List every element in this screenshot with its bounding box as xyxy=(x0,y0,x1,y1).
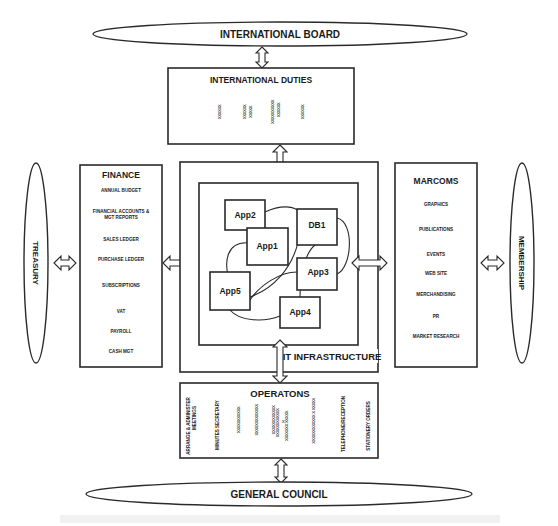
app-node-label: DB1 xyxy=(308,220,325,230)
finance-item: SALES LEDGER xyxy=(103,237,139,242)
finance-item: ANNUAL BUDGET xyxy=(101,188,141,193)
international-duties-box[interactable]: INTERNATIONAL DUTIES xxxxxxxxxxxxxxxxxxx… xyxy=(168,68,354,144)
marcoms-item: MERCHANDISING xyxy=(416,292,456,297)
app-node-app4[interactable]: App4 xyxy=(280,297,320,328)
double-arrow-horizontal-icon xyxy=(54,256,76,270)
operations-column-text: TELEPHONE/RECEPTION xyxy=(341,395,346,452)
duties-placeholder-text: xxxxxx xyxy=(299,104,305,119)
app-node-label: App1 xyxy=(256,241,278,251)
international-duties-title: INTERNATIONAL DUTIES xyxy=(210,75,312,85)
treasury[interactable]: TREASURY xyxy=(24,163,48,363)
finance-item: CASH MGT xyxy=(109,349,134,354)
membership[interactable]: MEMBERSHIP xyxy=(510,163,534,363)
finance-item: PURCHASE LEDGER xyxy=(98,257,145,262)
operations-column-text: xxxxxxx xxxxx xyxy=(283,410,289,440)
operations-column-text: xxxxxxxxxxxx xyxy=(274,408,280,437)
finance-box[interactable]: FINANCE ANNUAL BUDGET FINANCIAL ACCOUNTS… xyxy=(80,165,162,367)
app-node-app3[interactable]: App3 xyxy=(297,258,337,290)
duties-placeholder-text: xxxxx xyxy=(247,105,253,118)
finance-item: SUBSCRIPTIONS xyxy=(102,283,140,288)
duties-placeholder-text: xxxxxx xyxy=(275,102,281,117)
finance-item: VAT xyxy=(117,309,126,314)
organisation-diagram: INTERNATIONAL BOARD INTERNATIONAL DUTIES… xyxy=(0,0,558,526)
operations-column-text: ARRANGE & ADMINISTER xyxy=(186,397,191,455)
double-arrow-vertical-icon xyxy=(256,47,268,68)
operations-column-text: xxxxxxxxxxxxx xyxy=(253,404,259,436)
operations-box[interactable]: OPERATONS ARRANGE & ADMINISTERMEETINGSMI… xyxy=(180,383,378,458)
operations-column-text: MINUTES SECRETARY xyxy=(215,400,220,450)
membership-label: MEMBERSHIP xyxy=(517,236,526,291)
duties-placeholder-text: xxxxxx xyxy=(216,104,222,119)
treasury-label: TREASURY xyxy=(31,241,40,285)
marcoms-item: PR xyxy=(433,314,440,319)
app-node-label: App3 xyxy=(307,267,329,277)
finance-item: PAYROLL xyxy=(110,329,131,334)
finance-title: FINANCE xyxy=(102,170,140,180)
marcoms-title: MARCOMS xyxy=(414,176,459,186)
marcoms-box[interactable]: MARCOMS GRAPHICS PUBLICATIONS EVENTS WEB… xyxy=(395,163,477,367)
finance-frame xyxy=(80,165,162,367)
general-council-label: GENERAL COUNCIL xyxy=(230,489,327,500)
general-council[interactable]: GENERAL COUNCIL xyxy=(86,482,472,506)
international-board[interactable]: INTERNATIONAL BOARD xyxy=(93,22,467,46)
caption-band xyxy=(60,515,500,523)
app-node-app2[interactable]: App2 xyxy=(225,200,265,230)
operations-column-text: STATIONERY ORDERS xyxy=(366,401,371,451)
operations-column-text: xxxxxxxxxxxx x xxxxx xyxy=(310,398,316,444)
app-node-label: App4 xyxy=(289,307,311,317)
marcoms-item: MARKET RESEARCH xyxy=(413,334,460,339)
marcoms-item: GRAPHICS xyxy=(424,202,448,207)
double-arrow-horizontal-icon xyxy=(481,256,504,270)
app-node-app1[interactable]: App1 xyxy=(247,228,288,265)
operations-column-text: xxxxxxxxxxx xyxy=(235,406,241,433)
it-infrastructure-label: IT INFRASTRUCTURE xyxy=(283,351,382,362)
operations-column-text: MEETINGS xyxy=(192,406,197,430)
app-node-app5[interactable]: App5 xyxy=(210,272,250,310)
marcoms-item: PUBLICATIONS xyxy=(419,227,453,232)
marcoms-item: EVENTS xyxy=(427,252,445,257)
finance-item: FINANCIAL ACCOUNTS & xyxy=(93,209,150,214)
double-arrow-vertical-icon xyxy=(275,459,287,483)
operations-title: OPERATONS xyxy=(250,388,309,399)
international-board-label: INTERNATIONAL BOARD xyxy=(220,29,340,40)
app-node-label: App5 xyxy=(219,286,241,296)
marcoms-item: WEB SITE xyxy=(425,271,447,276)
app-node-db1[interactable]: DB1 xyxy=(297,209,337,245)
app-node-label: App2 xyxy=(234,210,256,220)
finance-item: MGT REPORTS xyxy=(104,215,138,220)
